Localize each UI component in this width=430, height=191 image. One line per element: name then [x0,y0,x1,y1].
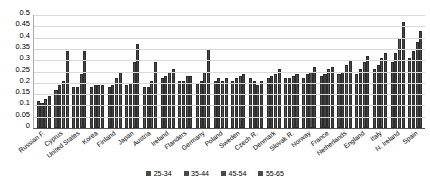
bar [416,42,419,128]
x-axis-label-cell: Japan [122,129,140,171]
bar [309,72,312,129]
x-axis-label-cell: Poland [211,129,229,171]
bar [48,96,51,128]
bar [203,72,206,129]
bar [256,85,259,128]
legend-item[interactable]: 55-65 [258,170,283,177]
legend-item[interactable]: 35-44 [184,170,209,177]
bar-chart: 0.50.450.40.350.30.250.20.150.10.050 Rus… [0,0,430,191]
bar [288,78,291,128]
chart-legend: 25-3435-4445-5455-65 [0,170,430,177]
bar [186,76,189,128]
bar [200,81,203,128]
bar [359,69,362,128]
y-axis: 0.50.450.40.350.30.250.20.150.10.050 [0,13,32,128]
bar [331,67,334,128]
x-axis-label-cell: Austria [140,129,158,171]
bar [125,85,128,128]
bar [345,65,348,128]
y-axis-tick: 0.25 [15,66,30,74]
bar [320,76,323,128]
x-axis-label-cell: Finland [104,129,122,171]
bar [62,81,65,128]
y-axis-tick: 0.3 [20,54,30,62]
legend-swatch-icon [258,171,263,176]
bar [419,31,422,128]
x-axis-label-cell: Germany [193,129,211,171]
bar [373,69,376,128]
plot-wrapper: 0.50.450.40.350.30.250.20.150.10.050 [0,0,430,135]
bar [270,76,273,128]
bar [54,90,57,128]
legend-item[interactable]: 25-34 [146,170,171,177]
bar [161,78,164,128]
bar [313,67,316,128]
bar [119,72,122,129]
bar [172,69,175,128]
bar [239,76,242,128]
bar [260,81,263,128]
bar [217,78,220,128]
bar [101,85,104,128]
gridline [34,117,425,118]
bar [94,85,97,128]
y-axis-tick: 0.1 [20,100,30,108]
bar [231,81,234,128]
bar [225,78,228,128]
x-axis-label-cell: England [353,129,371,171]
bar [178,81,181,128]
gridline [34,26,425,27]
gridline [34,60,425,61]
legend-swatch-icon [221,171,226,176]
x-axis-label-cell: Netherlands [335,129,353,171]
bar [327,69,330,128]
bar [44,99,47,128]
bar [341,72,344,129]
bar [168,72,171,129]
y-axis-tick: 0.4 [20,32,30,40]
bar [278,69,281,128]
y-axis-tick: 0.15 [15,88,30,96]
bar [97,85,100,128]
bar [150,81,153,128]
legend-item[interactable]: 45-54 [221,170,246,177]
y-axis-tick: 0.2 [20,77,30,85]
bar [40,103,43,128]
bar [253,81,256,128]
bar [292,76,295,128]
gridline [34,94,425,95]
x-axis-label-cell: Slovak R. [282,129,300,171]
x-axis-labels: Russian F.CyprusUnited StatesKoreaFinlan… [33,129,424,171]
x-axis-label-cell: N. Ireland [388,129,406,171]
legend-label: 25-34 [154,170,172,177]
plot-area [33,15,425,129]
gridline [34,72,425,73]
gridline [34,38,425,39]
y-axis-tick: 0.5 [20,9,30,17]
bar [58,85,61,128]
y-axis-tick: 0.05 [15,111,30,119]
bar [284,78,287,128]
legend-swatch-icon [184,171,189,176]
y-axis-tick: 0.45 [15,21,30,29]
bar [111,85,114,128]
bar [189,76,192,128]
bar [115,78,118,128]
bar [267,78,270,128]
bar [214,81,217,128]
y-axis-tick: 0 [26,122,30,130]
gridline [34,49,425,50]
legend-label: 35-44 [191,170,209,177]
x-axis-label-cell: United States [69,129,87,171]
gridline [34,105,425,106]
y-axis-tick: 0.35 [15,43,30,51]
bar [235,78,238,128]
gridline [34,15,425,16]
gridline [34,83,425,84]
legend-swatch-icon [146,171,151,176]
x-axis-label-cell: Spain [406,129,424,171]
bar [182,81,185,128]
bar [221,81,224,128]
x-axis-label-cell: Korea [86,129,104,171]
bar [249,78,252,128]
